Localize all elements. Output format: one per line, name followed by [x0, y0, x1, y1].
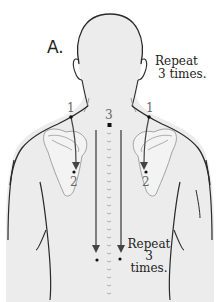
spine-point-3: [108, 123, 112, 127]
instruction-line: 3 times.: [155, 68, 207, 81]
left-start-number: 1: [67, 102, 75, 114]
spine-repeat-instruction: Repeat 3 times.: [127, 238, 171, 274]
body-back-illustration: [0, 0, 220, 302]
left-point-1: [69, 115, 73, 119]
back-massage-diagram: A. Repeat 3 times. Repeat 3 times. 1 1 2…: [0, 0, 220, 302]
left-end-number: 2: [70, 176, 78, 188]
right-end-number: 2: [142, 176, 150, 188]
left-point-2: [72, 170, 75, 173]
right-point-2: [144, 170, 147, 173]
spine-start-number: 3: [105, 109, 113, 121]
shoulder-repeat-instruction: Repeat 3 times.: [155, 55, 207, 81]
panel-label: A.: [47, 39, 64, 56]
left-spine-end-point: [95, 258, 98, 261]
right-spine-end-point: [118, 257, 121, 260]
right-start-number: 1: [146, 102, 154, 114]
right-point-1: [147, 115, 151, 119]
instruction-line: times.: [127, 262, 171, 274]
